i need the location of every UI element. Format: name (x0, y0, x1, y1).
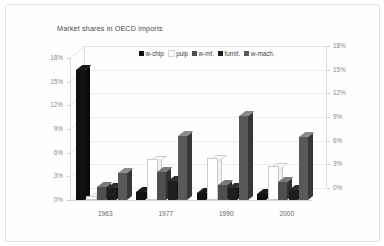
y-tick-label-left: 12% (41, 101, 63, 108)
bar-front-face (97, 187, 106, 200)
bar-side-face (248, 112, 253, 200)
bar-w-chip-1990 (197, 193, 206, 200)
bar-chart: Market shares in OECD imports 0%3%6%9%12… (0, 0, 384, 246)
bar-furnit--1977 (168, 181, 177, 200)
legend-item-furnit-[interactable]: furnit. (218, 50, 240, 57)
axis-line-right-back (326, 46, 327, 188)
depth-connector (70, 46, 85, 59)
bar-w-mf--1963 (97, 187, 106, 200)
y-tick-label-left: 15% (41, 78, 63, 85)
bar-w-mach--1990 (239, 116, 248, 200)
bar-front-face (268, 166, 279, 200)
bar-pulp-1990 (207, 160, 216, 200)
bar-front-face (289, 190, 298, 200)
y-tick-right (327, 164, 330, 165)
gridline (84, 141, 326, 142)
legend-item-pulp[interactable]: pulp (168, 50, 188, 57)
y-tick-label-right: 0% (333, 184, 357, 191)
y-tick-label-right: 3% (333, 160, 357, 167)
legend-label: w-chip (146, 50, 164, 57)
bar-front-face (168, 181, 177, 200)
bar-front-face (136, 192, 145, 200)
bar-side-face (127, 169, 132, 200)
bar-furnit--1990 (228, 188, 237, 200)
legend-label: w-mf. (199, 50, 214, 57)
bar-front-face (207, 158, 218, 200)
legend-item-w-mf-[interactable]: w-mf. (192, 50, 214, 57)
y-tick-right (327, 70, 330, 71)
y-tick-right (327, 188, 330, 189)
gridline (84, 70, 326, 71)
y-tick-right (327, 46, 330, 47)
chart-page: Market shares in OECD imports 0%3%6%9%12… (0, 0, 384, 246)
gridline (84, 46, 326, 47)
bar-w-chip-2000 (257, 194, 266, 200)
y-tick-right (327, 93, 330, 94)
bar-side-face (187, 132, 192, 200)
legend-swatch-icon (192, 51, 197, 56)
y-tick-label-right: 15% (333, 66, 357, 73)
bar-pulp-2000 (268, 168, 277, 200)
y-tick-label-right: 6% (333, 137, 357, 144)
bar-w-mach--1963 (118, 173, 127, 200)
y-tick-label-left: 6% (41, 149, 63, 156)
legend-swatch-icon (244, 51, 249, 56)
y-tick-label-right: 9% (333, 113, 357, 120)
legend-swatch-icon (218, 51, 223, 56)
axis-line-left (70, 58, 71, 200)
bar-side-face (85, 66, 90, 200)
y-tick-label-right: 18% (333, 42, 357, 49)
y-tick-label-left: 0% (41, 196, 63, 203)
bar-w-mach--2000 (299, 137, 308, 200)
y-tick-label-left: 18% (41, 54, 63, 61)
bar-w-chip-1963 (76, 70, 85, 200)
bar-pulp-1977 (147, 161, 156, 200)
legend-label: pulp (176, 50, 188, 57)
bar-side-face (308, 133, 313, 200)
bar-w-chip-1977 (136, 192, 145, 200)
bar-front-face (278, 182, 287, 200)
bar-furnit--1963 (107, 188, 116, 200)
bar-front-face (228, 188, 237, 200)
bar-front-face (197, 193, 206, 200)
bar-pulp-1963 (86, 198, 95, 200)
legend-item-w-mach-[interactable]: w-mach. (244, 50, 274, 57)
bar-front-face (257, 194, 266, 200)
y-tick-label-left: 3% (41, 172, 63, 179)
bar-w-mf--2000 (278, 182, 287, 200)
x-axis-label-1977: 1977 (146, 210, 186, 217)
gridline (84, 93, 326, 94)
x-axis-label-1990: 1990 (206, 210, 246, 217)
y-tick-label-left: 9% (41, 125, 63, 132)
bar-front-face (76, 70, 85, 200)
bar-front-face (157, 172, 166, 200)
bar-w-mf--1990 (218, 185, 227, 200)
bar-w-mf--1977 (157, 172, 166, 200)
gridline (84, 164, 326, 165)
legend-item-w-chip[interactable]: w-chip (139, 50, 164, 57)
legend-label: furnit. (225, 50, 241, 57)
bar-furnit--2000 (289, 190, 298, 200)
x-axis-label-1963: 1963 (85, 210, 125, 217)
legend-label: w-mach. (251, 50, 275, 57)
bar-front-face (178, 136, 187, 200)
y-tick-right (327, 117, 330, 118)
legend-swatch-icon (139, 51, 144, 56)
bar-front-face (218, 185, 227, 200)
gridline (84, 117, 326, 118)
bar-front-face (107, 188, 116, 200)
chart-legend: w-chippulpw-mf.furnit.w-mach. (139, 50, 275, 57)
y-tick-right (327, 141, 330, 142)
bar-front-face (118, 173, 127, 200)
legend-swatch-icon (168, 50, 175, 57)
bar-w-mach--1977 (178, 136, 187, 200)
y-tick-label-right: 12% (333, 89, 357, 96)
bar-front-face (86, 196, 97, 200)
bar-front-face (147, 159, 158, 200)
bar-front-face (239, 116, 248, 200)
bar-front-face (299, 137, 308, 200)
chart-title: Market shares in OECD imports (57, 24, 163, 33)
x-axis-label-2000: 2000 (267, 210, 307, 217)
